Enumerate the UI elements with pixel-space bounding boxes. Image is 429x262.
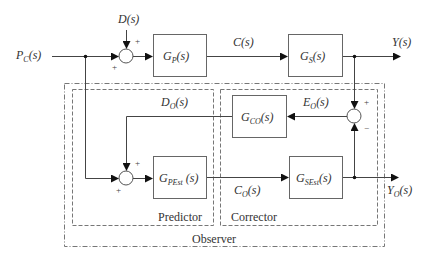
- pc-arg: (s): [29, 48, 42, 62]
- junction-dot-pc: [84, 55, 88, 59]
- block-gco-label: GCO(s): [241, 111, 273, 126]
- label-eo-signal: EO(s): [303, 96, 329, 111]
- observer-label: Observer: [192, 233, 236, 245]
- block-gpest-label: GPEst (s): [159, 172, 198, 187]
- label-co-signal: CO(s): [234, 184, 260, 199]
- label-c-signal: C(s): [233, 36, 254, 48]
- do-arg: (s): [175, 95, 188, 109]
- sum-junction-3: [347, 109, 361, 123]
- sum3-bottom-sign: −: [364, 124, 369, 133]
- predictor-boundary: [73, 90, 214, 226]
- junction-dot-y: [353, 55, 357, 59]
- sum3-top-sign: +: [364, 98, 369, 107]
- label-pc-input: PC(s): [16, 49, 41, 64]
- label-yo-output: YO(s): [387, 184, 412, 199]
- block-gp-label: GP(s): [163, 50, 189, 65]
- sum2-top-sign: +: [135, 159, 140, 168]
- co-main: C: [234, 183, 242, 197]
- yo-main: Y: [387, 183, 394, 197]
- sum-junction-1: [119, 49, 133, 63]
- sum1-left-sign: +: [112, 63, 117, 72]
- predictor-label: Predictor: [158, 211, 202, 223]
- corrector-label: Corrector: [231, 211, 277, 223]
- label-y-output: Y(s): [392, 36, 411, 48]
- observer-boundary: [65, 84, 385, 247]
- label-d-input: D(s): [118, 13, 139, 25]
- junction-dot-yo: [353, 176, 357, 180]
- label-do-signal: DO(s): [161, 96, 188, 111]
- sum-junction-2: [119, 171, 133, 185]
- co-arg: (s): [248, 183, 261, 197]
- eo-arg: (s): [316, 95, 329, 109]
- sum2-left-sign: +: [116, 186, 121, 195]
- yo-arg: (s): [399, 183, 412, 197]
- block-gsest-label: GSEst(s): [296, 172, 332, 187]
- do-main: D: [161, 95, 170, 109]
- block-gs-label: GS(s): [300, 50, 325, 65]
- sum1-top-sign: +: [135, 37, 140, 46]
